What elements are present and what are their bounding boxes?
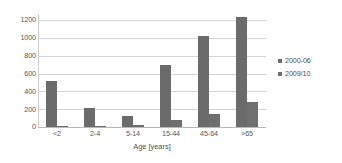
bar-series-2009-10[interactable] <box>209 114 220 127</box>
y-axis-tick-labels: 1200 1000 800 600 400 200 0 <box>0 20 36 127</box>
x-tick-label: >65 <box>228 130 266 138</box>
bar-group <box>114 14 152 127</box>
legend-swatch-icon <box>278 72 282 76</box>
x-axis-title: Age [years] <box>38 143 266 151</box>
bar-series-2009-10[interactable] <box>133 125 144 127</box>
bar-series-2000-06[interactable] <box>236 17 247 127</box>
bar-series-2009-10[interactable] <box>247 102 258 127</box>
bar-series-2009-10[interactable] <box>57 126 68 127</box>
bar-group <box>152 14 190 127</box>
bar-group <box>190 14 228 127</box>
bar-series-2000-06[interactable] <box>122 116 133 127</box>
bar-series-2009-10[interactable] <box>171 120 182 127</box>
bar-series-2000-06[interactable] <box>46 81 57 127</box>
x-tick-label: 2-4 <box>76 130 114 138</box>
bar-groups <box>38 14 266 127</box>
legend-label: 2000-06 <box>285 57 311 65</box>
bar-group <box>228 14 266 127</box>
y-tick-label: 1000 <box>2 34 36 41</box>
legend-item[interactable]: 2009/10 <box>278 67 340 80</box>
x-tick-label: 45-64 <box>190 130 228 138</box>
x-tick-label: 5-14 <box>114 130 152 138</box>
x-tick-label: <2 <box>38 130 76 138</box>
x-tick-label: 15-44 <box>152 130 190 138</box>
y-tick-label: 800 <box>2 52 36 59</box>
legend-item[interactable]: 2000-06 <box>278 54 340 67</box>
legend-swatch-icon <box>278 59 282 63</box>
bar-group <box>38 14 76 127</box>
bar-chart: 1200 1000 800 600 400 200 0 <box>0 0 342 163</box>
gridline-0-baseline <box>38 127 266 128</box>
bar-group <box>76 14 114 127</box>
bar-series-2000-06[interactable] <box>84 108 95 127</box>
y-tick-label: 600 <box>2 70 36 77</box>
y-tick-label: 1200 <box>2 16 36 23</box>
y-tick-label: 0 <box>2 123 36 130</box>
chart-legend: 2000-06 2009/10 <box>278 54 340 80</box>
y-tick-label: 400 <box>2 88 36 95</box>
bar-series-2000-06[interactable] <box>160 65 171 127</box>
y-tick-label: 200 <box>2 106 36 113</box>
bar-series-2009-10[interactable] <box>95 126 106 127</box>
legend-label: 2009/10 <box>285 70 310 78</box>
x-axis-tick-labels: <2 2-4 5-14 15-44 45-64 >65 <box>38 130 266 138</box>
bar-series-2000-06[interactable] <box>198 36 209 127</box>
